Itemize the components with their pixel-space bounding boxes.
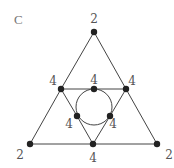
- edge-inner-right-bottom-center: [93, 116, 110, 144]
- edge-mid-right-bottom-right: [126, 89, 157, 144]
- inner-circle: [76, 89, 112, 125]
- edge-mid-left-bottom-left: [30, 89, 61, 144]
- edge-top-mid-right: [94, 32, 126, 89]
- node-label-mid-right: 4: [128, 74, 136, 88]
- node-top: [91, 29, 97, 35]
- node-mid-left: [58, 86, 64, 92]
- node-bottom-right: [154, 141, 160, 147]
- panel-label: C: [14, 12, 23, 27]
- node-label-mid-left: 4: [49, 74, 57, 88]
- node-label-bottom-center: 4: [89, 151, 97, 165]
- node-label-inner-right: 4: [109, 117, 117, 131]
- edge-top-mid-left: [61, 32, 94, 89]
- edge-inner-left-bottom-center: [77, 116, 93, 144]
- node-bottom-left: [27, 141, 33, 147]
- graph-svg: C 244444242: [0, 0, 174, 168]
- node-bottom-center: [90, 141, 96, 147]
- node-label-inner-left: 4: [65, 117, 73, 131]
- node-inner-left: [74, 113, 80, 119]
- edge-mid-left-inner-left: [61, 89, 77, 116]
- node-label-bottom-left: 2: [16, 148, 24, 162]
- node-label-mid-center: 4: [90, 73, 98, 87]
- node-label-top: 2: [90, 12, 98, 26]
- graph-diagram: C 244444242: [0, 0, 174, 168]
- nodes: [27, 29, 160, 147]
- edge-mid-right-inner-right: [110, 89, 126, 116]
- node-label-bottom-right: 2: [165, 148, 173, 162]
